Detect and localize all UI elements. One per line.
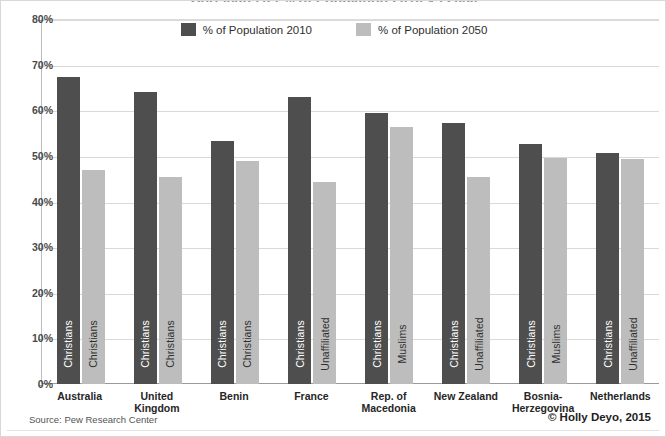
bar-inner-label: Christians xyxy=(293,320,305,368)
bar-inner-label: Christians xyxy=(62,320,74,368)
bar-group: ChristiansChristians xyxy=(42,20,119,384)
chart-container: Christians as % of Population 2010 vs 20… xyxy=(0,0,666,437)
bar-groups: ChristiansChristiansChristiansChristians… xyxy=(42,20,659,384)
x-axis-category-label: United Kingdom xyxy=(118,387,195,414)
bar-inner-label: Muslims xyxy=(550,324,562,363)
bar-inner-label: Christians xyxy=(525,320,537,368)
y-axis-tick-label: 70% xyxy=(19,59,53,71)
bar[interactable]: Christians xyxy=(159,177,182,384)
bar-inner-label: Christians xyxy=(602,320,614,368)
bar-group: ChristiansChristians xyxy=(196,20,273,384)
x-axis-category-label: Benin xyxy=(196,387,273,414)
bar[interactable]: Unaffiliated xyxy=(313,182,336,384)
x-axis-category-label: Rep. of Macedonia xyxy=(350,387,427,414)
x-axis-labels: AustraliaUnited KingdomBeninFranceRep. o… xyxy=(41,387,659,414)
bar-inner-label: Christians xyxy=(448,320,460,368)
copyright-credit: © Holly Deyo, 2015 xyxy=(548,411,651,423)
x-axis-category-line: Netherlands xyxy=(582,390,659,402)
bar[interactable]: Christians xyxy=(365,113,388,384)
y-axis-tick-label: 20% xyxy=(19,287,53,299)
bar-group: ChristiansChristians xyxy=(119,20,196,384)
x-axis-category-line: Australia xyxy=(41,390,118,402)
y-axis-tick-label: 80% xyxy=(19,13,53,25)
x-axis-category-line: New Zealand xyxy=(427,390,504,402)
y-axis-tick-label: 60% xyxy=(19,104,53,116)
bar[interactable]: Christians xyxy=(134,92,157,384)
bar-inner-label: Christians xyxy=(139,320,151,368)
x-axis-category-line: Bosnia- xyxy=(505,390,582,402)
bar[interactable]: Christians xyxy=(82,170,105,384)
bar-inner-label: Christians xyxy=(241,320,253,368)
y-axis-tick-label: 40% xyxy=(19,196,53,208)
bar-inner-label: Unaffiliated xyxy=(473,317,485,371)
source-note: Source: Pew Research Center xyxy=(29,414,157,425)
bar-inner-label: Christians xyxy=(216,320,228,368)
plot-area: ChristiansChristiansChristiansChristians… xyxy=(41,19,659,384)
x-axis-category-label: Bosnia-Herzegovina xyxy=(505,387,582,414)
bar[interactable]: Christians xyxy=(57,77,80,384)
bar-group: ChristiansMuslims xyxy=(505,20,582,384)
bar[interactable]: Christians xyxy=(211,141,234,384)
x-axis-category-label: France xyxy=(273,387,350,414)
bar-inner-label: Christians xyxy=(371,320,383,368)
x-axis-category-label: Netherlands xyxy=(582,387,659,414)
bar[interactable]: Christians xyxy=(442,123,465,384)
bar-group: ChristiansUnaffiliated xyxy=(273,20,350,384)
bar[interactable]: Muslims xyxy=(390,127,413,384)
footer-divider xyxy=(7,430,659,431)
bar[interactable]: Unaffiliated xyxy=(621,159,644,384)
bar-group: ChristiansMuslims xyxy=(351,20,428,384)
chart-title: Christians as % of Population 2010 vs 20… xyxy=(1,0,666,2)
bar[interactable]: Unaffiliated xyxy=(467,177,490,384)
bar-inner-label: Unaffiliated xyxy=(318,317,330,371)
bar-inner-label: Christians xyxy=(87,320,99,368)
x-axis-category-line: Rep. of Macedonia xyxy=(350,390,427,414)
x-axis-category-line: United Kingdom xyxy=(118,390,195,414)
y-axis-tick-label: 50% xyxy=(19,150,53,162)
x-axis-category-label: Australia xyxy=(41,387,118,414)
bar-group: ChristiansUnaffiliated xyxy=(428,20,505,384)
y-axis-tick-label: 10% xyxy=(19,332,53,344)
bar-inner-label: Christians xyxy=(164,320,176,368)
bar[interactable]: Christians xyxy=(288,97,311,384)
bar[interactable]: Christians xyxy=(236,161,259,384)
x-axis-category-line: France xyxy=(273,390,350,402)
x-axis-category-line: Benin xyxy=(196,390,273,402)
y-axis-tick-label: 30% xyxy=(19,241,53,253)
bar-inner-label: Muslims xyxy=(396,324,408,363)
bar[interactable]: Christians xyxy=(519,144,542,384)
bar-group: ChristiansUnaffiliated xyxy=(582,20,659,384)
bar[interactable]: Christians xyxy=(596,153,619,384)
bar[interactable]: Muslims xyxy=(544,158,567,384)
bar-inner-label: Unaffiliated xyxy=(627,317,639,371)
x-axis-category-label: New Zealand xyxy=(427,387,504,414)
